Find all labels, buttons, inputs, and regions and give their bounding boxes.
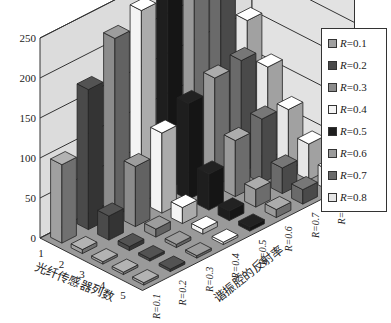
legend-swatch <box>328 149 337 158</box>
legend: R=0.1 R=0.2 R=0.3 R=0.4 R=0.5 R=0.6 R=0.… <box>321 28 387 212</box>
z-tick-label: 100 <box>20 152 37 164</box>
z-tick-label: 0 <box>31 232 37 244</box>
bar-face-right <box>88 82 103 229</box>
bar-face-left <box>51 159 62 243</box>
y-tick-label: R=0.2 <box>177 280 188 306</box>
legend-item: R=0.1 <box>328 36 367 50</box>
bar-face-left <box>151 127 162 213</box>
bar-face-right <box>62 157 77 243</box>
legend-swatch <box>328 171 337 180</box>
bar <box>124 153 150 226</box>
legend-item: R=0.8 <box>328 190 367 204</box>
y-tick-label: R=0.6 <box>283 226 294 252</box>
bar-face-left <box>298 138 309 180</box>
bar <box>77 76 103 229</box>
bar-face-left <box>198 168 209 210</box>
y-tick-label: R=0.7 <box>310 212 321 239</box>
x-tick-label: 1 <box>38 247 44 259</box>
legend-item: R=0.5 <box>328 124 367 138</box>
y-tick-label: R=0.1 <box>151 294 162 320</box>
bar <box>98 203 124 240</box>
legend-item: R=0.6 <box>328 146 367 160</box>
bar-face-right <box>135 159 150 226</box>
bar <box>51 152 77 244</box>
legend-swatch <box>328 127 337 136</box>
z-tick-label: 250 <box>20 32 37 44</box>
bar-face-left <box>124 161 135 227</box>
legend-swatch <box>328 39 337 48</box>
bar-face-left <box>104 33 115 216</box>
legend-swatch <box>328 193 337 202</box>
z-tick-label: 150 <box>20 112 37 124</box>
bar-face-left <box>77 84 88 230</box>
bar <box>198 161 224 210</box>
x-tick-label: 5 <box>120 289 126 301</box>
y-tick-label: R=0.3 <box>204 267 215 293</box>
bar <box>151 120 177 213</box>
legend-swatch <box>328 83 337 92</box>
y-axis-title: 谐振腔的反射率 <box>211 242 286 306</box>
legend-item: R=0.4 <box>328 102 367 116</box>
bar-face-left <box>177 98 188 200</box>
z-tick-label: 200 <box>20 72 37 84</box>
z-tick-label: 50 <box>25 192 37 204</box>
legend-item: R=0.7 <box>328 168 367 182</box>
legend-item: R=0.3 <box>328 80 367 94</box>
bar-face-left <box>251 113 262 183</box>
legend-swatch <box>328 61 337 70</box>
legend-swatch <box>328 105 337 114</box>
bar-face-left <box>224 135 235 197</box>
legend-item: R=0.2 <box>328 58 367 72</box>
